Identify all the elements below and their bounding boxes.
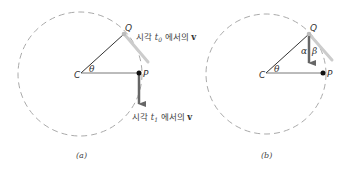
label-beta-b: β [311, 46, 317, 56]
radius-cq-a [81, 34, 124, 73]
annotation-t1: 시각 t1 에서의 v [132, 112, 193, 123]
label-alpha-b: α [301, 46, 307, 56]
panel-b: C θ Q P α β (b) [206, 14, 333, 160]
circular-motion-figure: C θ Q P 시각 t0 에서의 v 시각 t1 에서의 v (a) C θ … [0, 0, 356, 174]
label-c-a: C [74, 70, 81, 80]
panel-a: C θ Q P 시각 t0 에서의 v 시각 t1 에서의 v (a) [18, 12, 197, 160]
point-p-b [321, 71, 326, 76]
point-p-a [137, 71, 142, 76]
label-theta-a: θ [89, 64, 95, 74]
label-q-a: Q [125, 23, 132, 33]
label-p-b: P [327, 69, 333, 79]
caption-a: (a) [76, 151, 87, 160]
caption-b: (b) [261, 151, 272, 160]
label-q-b: Q [310, 23, 317, 33]
label-c-b: C [259, 70, 266, 80]
label-theta-b: θ [274, 64, 280, 74]
annotation-t0: 시각 t0 에서의 v [136, 32, 197, 43]
label-p-a: P [143, 69, 149, 79]
